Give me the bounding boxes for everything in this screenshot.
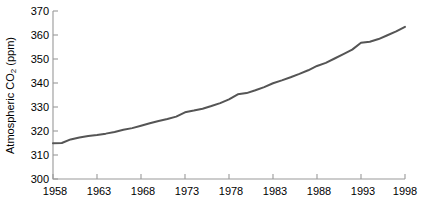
x-axis-ticks <box>53 174 405 179</box>
co2-line-chart: Atmospheric CO2 (ppm) 370 360 350 340 33… <box>0 0 429 212</box>
y-axis-ticks <box>53 11 58 179</box>
plot-area <box>0 0 429 212</box>
axis-spines <box>53 11 405 179</box>
co2-data-line <box>53 27 405 143</box>
